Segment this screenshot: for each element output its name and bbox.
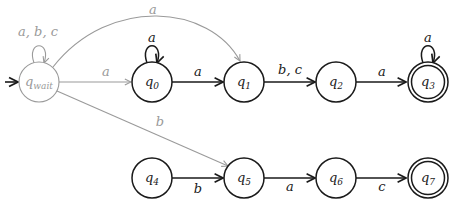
label-q2-q3: a (378, 64, 386, 79)
state-q6: q6 (316, 158, 356, 198)
label-q0-q1: a (194, 64, 202, 79)
label-q5-q6: a (286, 179, 294, 194)
label-qwait-q1: a (149, 2, 157, 17)
label-q3-self: a (424, 30, 432, 45)
state-q3-accepting: q3 (408, 62, 448, 102)
label-qwait-q5: b (156, 114, 164, 129)
state-q4: q4 (132, 158, 172, 198)
label-q0-self: a (148, 30, 156, 45)
state-q1: q1 (224, 62, 264, 102)
edge-q0-self (145, 46, 158, 63)
automaton-diagram: a, b, c a a b a a b, c a a b a c qwait q… (0, 0, 468, 205)
edge-qwait-self (32, 46, 45, 63)
edge-q3-self (421, 46, 434, 63)
label-q6-q7: c (378, 179, 386, 194)
state-q5: q5 (224, 158, 264, 198)
label-qwait-q0: a (102, 64, 110, 79)
label-qwait-self: a, b, c (18, 24, 59, 39)
label-q1-q2: b, c (278, 62, 303, 77)
state-qwait: qwait (19, 62, 59, 102)
state-q7-accepting: q7 (408, 158, 448, 198)
state-q0: q0 (132, 62, 172, 102)
label-q4-q5: b (194, 181, 202, 196)
edge-qwait-q5 (57, 91, 228, 166)
state-q2: q2 (316, 62, 356, 102)
